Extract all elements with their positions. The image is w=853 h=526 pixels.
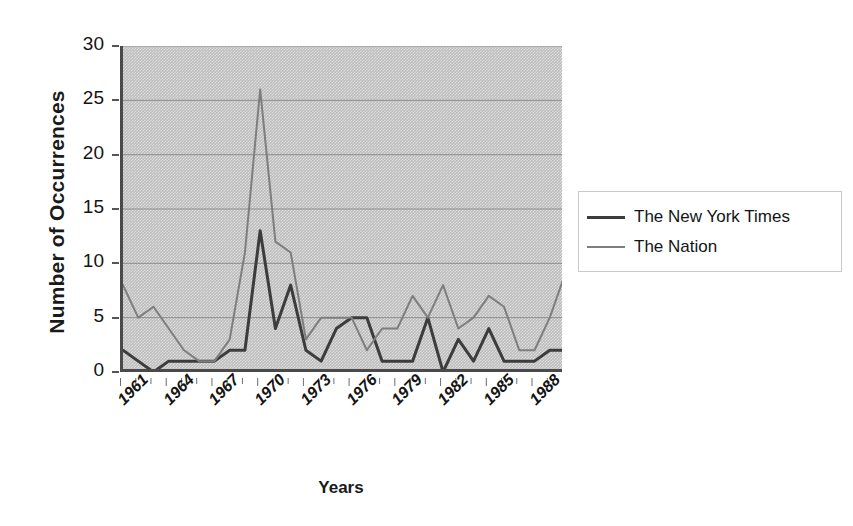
y-tick-label: 5 [64, 305, 104, 327]
y-tick-mark [112, 208, 119, 210]
legend-line-icon-1 [587, 246, 625, 248]
legend-line-icon-0 [587, 216, 625, 219]
legend-label-1: The Nation [634, 237, 717, 257]
chart-figure: Number of Occurrences 302520151050 19611… [0, 0, 853, 526]
y-tick-mark [112, 317, 119, 319]
y-tick-label: 30 [64, 33, 104, 55]
plot-area [120, 46, 562, 372]
legend-item-1: The Nation [587, 235, 717, 259]
y-tick-mark [112, 99, 119, 101]
x-axis-title: Years [120, 478, 562, 498]
y-tick-label: 25 [64, 87, 104, 109]
y-tick-label: 10 [64, 250, 104, 272]
y-tick-label: 20 [64, 142, 104, 164]
plot-lines [123, 46, 562, 372]
series-line-1 [123, 89, 562, 361]
y-tick-mark [112, 371, 119, 373]
legend-label-0: The New York Times [634, 207, 790, 227]
legend-item-0: The New York Times [587, 205, 790, 229]
y-tick-mark [112, 154, 119, 156]
y-tick-mark [112, 262, 119, 264]
y-tick-label: 0 [64, 359, 104, 381]
chart-legend: The New York Times The Nation [578, 191, 842, 272]
y-tick-label: 15 [64, 196, 104, 218]
y-tick-mark [112, 45, 119, 47]
